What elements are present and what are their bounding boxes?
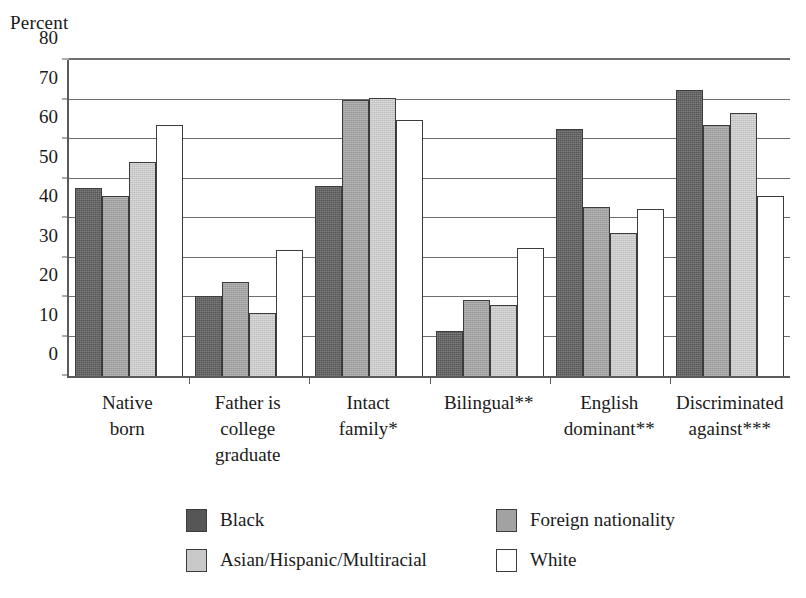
- x-axis-label: Nativeborn: [67, 390, 188, 468]
- bar: [583, 207, 610, 376]
- bar: [757, 196, 784, 376]
- bar: [129, 162, 156, 376]
- y-tick-mark: [62, 138, 69, 139]
- bar: [156, 125, 183, 376]
- legend-swatch: [186, 549, 207, 572]
- y-tick-mark: [62, 177, 69, 178]
- y-tick-mark: [62, 296, 69, 297]
- bar: [676, 90, 703, 376]
- x-tick-mark: [550, 376, 551, 384]
- x-axis-label: Bilingual**: [429, 390, 550, 468]
- x-axis-label-line: Discriminated: [671, 390, 790, 416]
- y-tick-label: 80: [39, 27, 58, 49]
- bar: [222, 282, 249, 376]
- bar: [556, 129, 583, 376]
- plot-area: 01020304050607080: [67, 60, 790, 378]
- bar: [75, 188, 102, 376]
- y-tick-label: 70: [39, 67, 58, 89]
- bar-group: [670, 60, 790, 376]
- x-axis-labels: NativebornFather iscollegegraduateIntact…: [67, 390, 790, 468]
- legend-label: Foreign nationality: [530, 509, 675, 531]
- x-axis-label-line: Bilingual**: [430, 390, 549, 416]
- x-tick-mark: [189, 376, 190, 384]
- y-tick-mark: [62, 98, 69, 99]
- bar: [730, 113, 757, 376]
- legend-label: Black: [220, 509, 264, 531]
- y-tick-mark: [62, 217, 69, 218]
- bar-group: [309, 60, 429, 376]
- x-axis-label-line: against***: [671, 416, 790, 442]
- bar: [276, 250, 303, 376]
- bar: [517, 248, 544, 376]
- bar: [463, 300, 490, 376]
- bar: [195, 296, 222, 376]
- legend-swatch: [496, 549, 517, 572]
- y-tick-label: 40: [39, 185, 58, 207]
- legend-item: Foreign nationality: [496, 509, 746, 532]
- y-tick-label: 20: [39, 264, 58, 286]
- legend-label: White: [530, 549, 576, 571]
- bar: [436, 331, 463, 376]
- bar: [490, 305, 517, 376]
- x-axis-label-line: Intact: [309, 390, 428, 416]
- bar-group: [430, 60, 550, 376]
- x-axis-label: Intactfamily*: [308, 390, 429, 468]
- x-axis-label-line: family*: [309, 416, 428, 442]
- y-tick-label: 30: [39, 225, 58, 247]
- legend-item: White: [496, 549, 746, 572]
- y-tick-mark: [62, 256, 69, 257]
- x-tick-mark: [309, 376, 310, 384]
- x-axis-label-line: Father is: [189, 390, 308, 416]
- bar: [249, 313, 276, 376]
- bar: [610, 233, 637, 376]
- legend-item: Asian/Hispanic/Multiracial: [186, 549, 496, 572]
- x-axis-label: Father iscollegegraduate: [188, 390, 309, 468]
- x-axis-label-line: dominant**: [550, 416, 669, 442]
- y-tick-label: 0: [49, 343, 59, 365]
- x-axis-label-line: English: [550, 390, 669, 416]
- bar: [102, 196, 129, 376]
- bar-group: [189, 60, 309, 376]
- bar: [315, 186, 342, 376]
- x-axis-label-line: graduate: [189, 442, 308, 468]
- bar: [396, 120, 423, 376]
- x-axis-label: Englishdominant**: [549, 390, 670, 468]
- legend-swatch: [186, 509, 207, 532]
- bar-groups: [69, 60, 790, 376]
- bar: [369, 98, 396, 376]
- bar: [637, 209, 664, 376]
- legend-item: Black: [186, 509, 496, 532]
- bar: [342, 100, 369, 377]
- chart-legend: BlackForeign nationalityAsian/Hispanic/M…: [186, 500, 746, 580]
- x-axis-label-line: college: [189, 416, 308, 442]
- x-axis-label: Discriminatedagainst***: [670, 390, 791, 468]
- legend-label: Asian/Hispanic/Multiracial: [220, 549, 427, 571]
- y-tick-mark: [62, 375, 69, 376]
- y-tick-mark: [62, 335, 69, 336]
- x-axis-label-line: Native: [68, 390, 187, 416]
- y-tick-label: 60: [39, 106, 58, 128]
- bar: [703, 125, 730, 376]
- x-tick-mark: [670, 376, 671, 384]
- bar-group: [550, 60, 670, 376]
- y-tick-mark: [62, 59, 69, 60]
- y-tick-label: 50: [39, 146, 58, 168]
- x-axis-label-line: born: [68, 416, 187, 442]
- x-tick-mark: [430, 376, 431, 384]
- bar-group: [69, 60, 189, 376]
- y-tick-label: 10: [39, 304, 58, 326]
- legend-swatch: [496, 509, 517, 532]
